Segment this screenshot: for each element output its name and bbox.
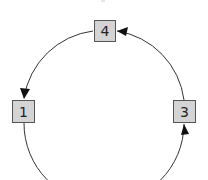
node-3: 3 <box>173 100 196 123</box>
edge-1-to-3 <box>24 123 184 180</box>
arrowhead-into-1-icon <box>20 88 30 99</box>
edge-3-to-4 <box>117 31 184 100</box>
node-1: 1 <box>12 100 35 123</box>
node-4: 4 <box>94 20 116 42</box>
top-artifact <box>101 0 105 2</box>
edge-4-to-1 <box>24 31 93 98</box>
node-3-label: 3 <box>180 104 189 120</box>
node-4-label: 4 <box>101 23 110 39</box>
node-1-label: 1 <box>19 104 28 120</box>
arrowhead-into-3-icon <box>181 124 189 135</box>
arrowhead-into-4-icon <box>117 27 128 36</box>
